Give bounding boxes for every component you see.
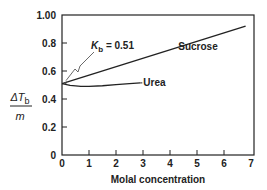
x-tick-label: 4 bbox=[167, 158, 173, 169]
x-tick-label: 7 bbox=[248, 158, 254, 169]
kb-annotation-arrow bbox=[66, 52, 94, 81]
x-tick-label: 6 bbox=[221, 158, 227, 169]
series-label-urea: Urea bbox=[143, 77, 166, 88]
y-axis-title-numerator: ΔT bbox=[9, 91, 25, 103]
series-line-sucrose bbox=[62, 26, 246, 83]
y-axis-title-subscript: b bbox=[25, 96, 30, 106]
y-tick-label: 0.4 bbox=[42, 94, 56, 105]
kb-annotation: Kb = 0.51 bbox=[91, 40, 134, 54]
series-label-sucrose: Sucrose bbox=[178, 41, 218, 52]
y-axis-title-denominator: m bbox=[15, 110, 24, 122]
y-axis-title: ΔTb m bbox=[9, 91, 32, 122]
x-axis-title: Molal concentration bbox=[111, 174, 205, 185]
y-tick-label: 0.6 bbox=[42, 66, 56, 77]
chart: 01234567 00.20.40.60.81.00 SucroseUrea K… bbox=[0, 0, 267, 190]
x-tick-label: 1 bbox=[86, 158, 92, 169]
y-tick-label: 0.8 bbox=[42, 38, 56, 49]
x-tick-label: 0 bbox=[59, 158, 65, 169]
y-tick-label: 1.00 bbox=[37, 10, 57, 21]
x-tick-label: 2 bbox=[113, 158, 119, 169]
series-line-urea bbox=[62, 83, 140, 87]
x-tick-label: 3 bbox=[140, 158, 146, 169]
y-tick-label: 0.2 bbox=[42, 122, 56, 133]
x-tick-label: 5 bbox=[194, 158, 200, 169]
svg-text:ΔTb: ΔTb bbox=[9, 91, 29, 106]
y-tick-label: 0 bbox=[50, 150, 56, 161]
